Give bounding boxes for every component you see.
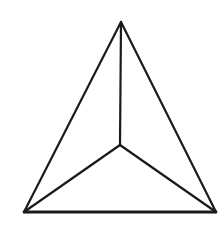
edge-apex-bottom-right: [121, 22, 216, 212]
edge-bottom-right-center: [120, 145, 216, 212]
edge-apex-bottom-left: [24, 22, 121, 212]
edge-apex-center: [120, 22, 121, 145]
pyramid-diagram: [0, 0, 224, 229]
edge-bottom-left-center: [24, 145, 120, 212]
diagram-canvas: [0, 0, 224, 229]
